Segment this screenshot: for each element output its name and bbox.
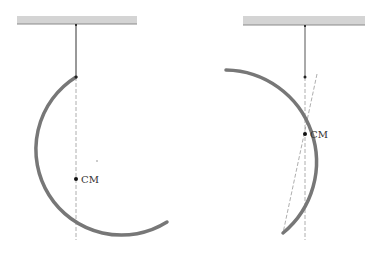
left-figure: CM	[17, 16, 167, 240]
right-figure: CM	[226, 16, 365, 240]
right-cm-dot	[303, 132, 307, 136]
right-cm-label: CM	[310, 129, 328, 140]
physics-diagram: CM CM	[0, 0, 387, 255]
left-string-anchor	[75, 24, 77, 26]
right-pivot-dot	[304, 76, 307, 79]
right-ceiling	[243, 16, 365, 25]
left-hoop-arc	[36, 77, 167, 235]
left-cm-label: CM	[81, 174, 99, 185]
right-hoop-arc	[226, 70, 317, 233]
left-ceiling	[17, 16, 137, 24]
left-pivot-dot	[75, 76, 78, 79]
stray-dot	[96, 160, 98, 162]
left-cm-dot	[74, 177, 78, 181]
diagram-svg: CM CM	[0, 0, 387, 255]
right-string-anchor	[304, 25, 306, 27]
